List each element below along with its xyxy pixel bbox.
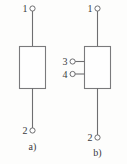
terminal-label-a-1: 1 — [23, 3, 28, 14]
caption-a: a) — [29, 141, 37, 153]
element-body-b — [85, 47, 111, 89]
terminal-ring-b-3[interactable] — [70, 59, 75, 64]
terminal-label-b-3: 3 — [63, 56, 68, 67]
terminal-ring-b-4[interactable] — [70, 71, 75, 76]
terminal-ring-a-2[interactable] — [30, 128, 35, 133]
terminal-label-a-2: 2 — [23, 125, 28, 136]
terminal-ring-b-2[interactable] — [95, 135, 100, 140]
figure-canvas: 1 2 a) 1 — [0, 0, 127, 164]
caption-b: b) — [93, 147, 101, 159]
terminal-label-b-2: 2 — [88, 132, 93, 143]
diagram-a: 1 2 a) — [20, 3, 46, 153]
terminal-label-b-1: 1 — [88, 3, 93, 14]
element-body-a — [20, 47, 46, 89]
diagram-b: 1 3 4 2 b) — [63, 3, 111, 159]
terminal-ring-b-1[interactable] — [95, 6, 100, 11]
terminal-ring-a-1[interactable] — [30, 6, 35, 11]
terminal-label-b-4: 4 — [63, 69, 68, 80]
